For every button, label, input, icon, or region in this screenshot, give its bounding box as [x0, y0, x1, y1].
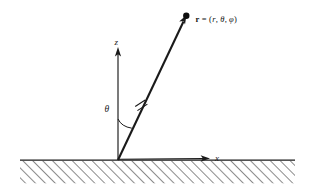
- vector-label-comma-2: ,: [225, 14, 227, 24]
- vector-label-group: r=(r,θ,φ): [196, 14, 238, 24]
- z-axis-label: z: [114, 37, 119, 47]
- vector-label-bold-r: r: [196, 14, 200, 24]
- spherical-coordinate-diagram: z x θ r=(r,θ,φ): [0, 0, 310, 196]
- vector-label-equals: =: [202, 14, 207, 24]
- vector-label-close-paren: ): [234, 14, 237, 24]
- vector-endpoint-dot: [183, 13, 189, 19]
- x-axis-label: x: [214, 153, 219, 163]
- vector-label-comma-1: ,: [216, 14, 218, 24]
- vector-label-text: r=(r,θ,φ): [196, 14, 238, 24]
- figure-root: z x θ r=(r,θ,φ): [0, 0, 310, 196]
- x-axis-line: [118, 159, 203, 160]
- theta-angle-label: θ: [105, 104, 110, 114]
- ground-hatching: [20, 161, 295, 184]
